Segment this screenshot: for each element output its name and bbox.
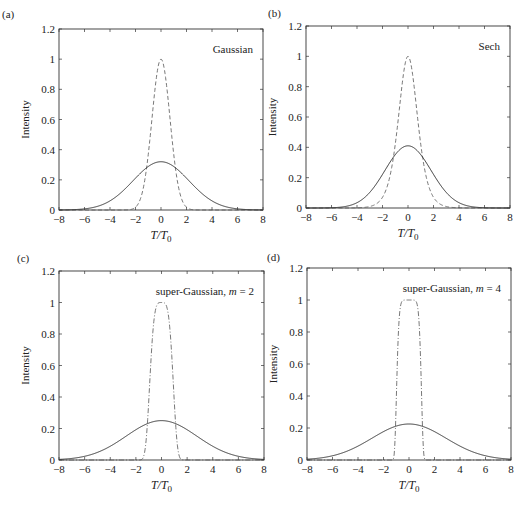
y-axis-label: Intensity <box>19 346 31 385</box>
y-tick-label: 1.2 <box>41 23 55 35</box>
input-pulse-curve <box>307 300 511 460</box>
panel-label: (c) <box>17 252 30 265</box>
x-tick-label: −2 <box>130 213 142 225</box>
x-tick-label: 8 <box>260 213 266 225</box>
x-tick-label: −2 <box>377 211 389 223</box>
y-tick-label: 0.6 <box>288 111 302 123</box>
y-axis-label: Intensity <box>267 344 279 383</box>
panel-label: (b) <box>268 7 281 20</box>
x-tick-label: −6 <box>326 211 338 223</box>
x-tick-label: 6 <box>235 213 241 225</box>
x-tick-label: −2 <box>378 463 390 475</box>
panel-b: (b)−8−6−4−20246800.20.40.60.811.2T/T0Int… <box>266 7 513 242</box>
y-tick-label: 0.8 <box>288 81 302 93</box>
broadened-pulse-curve <box>307 424 511 459</box>
panel-a: (a)−8−6−4−20246800.20.40.60.811.2T/T0Int… <box>2 8 266 244</box>
x-tick-label: 2 <box>184 213 190 225</box>
y-tick-label: 0.4 <box>41 391 55 403</box>
broadened-pulse-curve <box>306 146 510 208</box>
x-tick-label: 0 <box>406 463 412 475</box>
x-tick-label: −4 <box>351 211 363 223</box>
x-axis-ticks: −8−6−4−202468 <box>53 29 266 225</box>
y-tick-label: 0.6 <box>41 114 55 126</box>
y-tick-label: 1 <box>50 297 56 309</box>
x-tick-label: 0 <box>405 211 411 223</box>
input-pulse-curve <box>59 59 263 210</box>
x-tick-label: 2 <box>432 463 438 475</box>
y-tick-label: 0.2 <box>41 174 55 186</box>
y-tick-label: 0.4 <box>288 141 302 153</box>
x-tick-label: 6 <box>236 463 242 475</box>
x-tick-label: 6 <box>483 463 489 475</box>
x-tick-label: −2 <box>130 463 142 475</box>
figure: (a)−8−6−4−20246800.20.40.60.811.2T/T0Int… <box>0 0 528 507</box>
x-tick-label: −6 <box>79 463 91 475</box>
broadened-pulse-curve <box>59 421 264 460</box>
y-tick-label: 0.8 <box>41 83 55 95</box>
y-axis-ticks: 00.20.40.60.811.2 <box>288 20 510 214</box>
y-tick-label: 0.6 <box>289 358 303 370</box>
x-axis-ticks: −8−6−4−202468 <box>53 271 267 475</box>
y-tick-label: 0 <box>50 204 56 216</box>
panel-title: Sech <box>479 40 501 52</box>
x-tick-label: 8 <box>507 211 513 223</box>
x-tick-label: 0 <box>158 213 164 225</box>
y-tick-label: 0.4 <box>289 390 303 402</box>
y-tick-label: 0 <box>50 454 56 466</box>
panel-title: Gaussian <box>213 43 254 55</box>
axes-frame <box>306 26 510 208</box>
input-pulse-curve <box>59 303 264 461</box>
x-tick-label: 4 <box>456 211 462 223</box>
x-tick-label: −4 <box>104 213 116 225</box>
y-axis-label: Intensity <box>19 100 31 139</box>
x-tick-label: −6 <box>79 213 91 225</box>
y-tick-label: 0.2 <box>41 423 55 435</box>
x-tick-label: 0 <box>159 463 165 475</box>
x-tick-label: 8 <box>508 463 514 475</box>
y-tick-label: 1 <box>50 53 56 65</box>
y-tick-label: 1.2 <box>288 20 302 32</box>
y-tick-label: 0.4 <box>41 144 55 156</box>
y-tick-label: 0.6 <box>41 360 55 372</box>
y-tick-label: 0.8 <box>41 328 55 340</box>
x-tick-label: −6 <box>327 463 339 475</box>
axes-frame <box>59 29 263 210</box>
y-axis-label: Intensity <box>266 97 278 136</box>
y-tick-label: 1.2 <box>41 265 55 277</box>
y-tick-label: 1 <box>298 294 304 306</box>
y-tick-label: 0.2 <box>288 172 302 184</box>
x-axis-label: T/T0 <box>398 478 420 494</box>
x-tick-label: 4 <box>209 213 215 225</box>
x-tick-label: 2 <box>431 211 437 223</box>
x-tick-label: 4 <box>210 463 216 475</box>
y-tick-label: 0.2 <box>289 422 303 434</box>
x-axis-ticks: −8−6−4−202468 <box>300 26 513 223</box>
panel-label: (a) <box>2 8 15 21</box>
y-tick-label: 0 <box>298 454 304 466</box>
axes-frame <box>307 268 511 460</box>
axes-frame <box>59 271 264 460</box>
broadened-pulse-curve <box>59 162 263 210</box>
y-tick-label: 0.8 <box>289 326 303 338</box>
y-tick-label: 1 <box>297 50 303 62</box>
panel-label: (d) <box>267 251 280 264</box>
x-tick-label: −4 <box>352 463 364 475</box>
panel-title: super-Gaussian, m = 4 <box>403 282 502 294</box>
x-tick-label: 8 <box>261 463 267 475</box>
x-tick-label: 6 <box>482 211 488 223</box>
x-axis-label: T/T0 <box>397 226 419 242</box>
input-pulse-curve <box>306 56 510 208</box>
y-tick-label: 0 <box>297 202 303 214</box>
panel-c: (c)−8−6−4−20246800.20.40.60.811.2T/T0Int… <box>17 252 267 494</box>
x-axis-label: T/T0 <box>150 228 172 244</box>
x-axis-ticks: −8−6−4−202468 <box>301 268 514 475</box>
panel-title: super-Gaussian, m = 2 <box>156 285 254 297</box>
x-tick-label: 2 <box>184 463 190 475</box>
x-axis-label: T/T0 <box>151 478 173 494</box>
panel-d: (d)−8−6−4−20246800.20.40.60.811.2T/T0Int… <box>267 251 514 494</box>
x-tick-label: 4 <box>457 463 463 475</box>
y-tick-label: 1.2 <box>289 262 303 274</box>
x-tick-label: −4 <box>104 463 116 475</box>
